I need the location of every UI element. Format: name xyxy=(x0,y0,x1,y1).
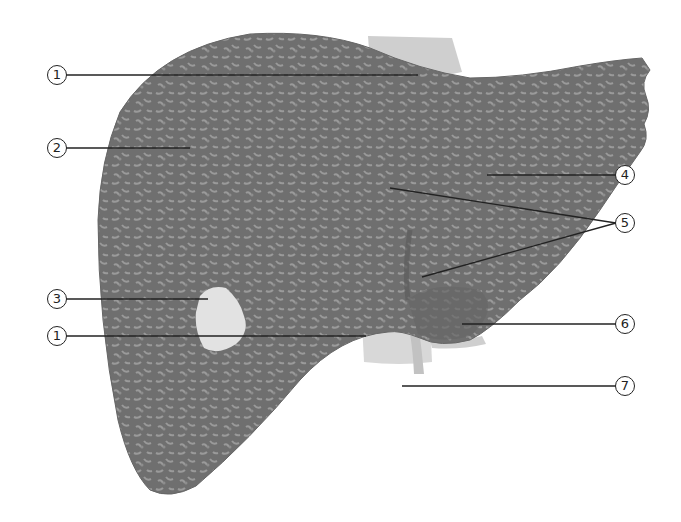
callout-6: 6 xyxy=(615,314,635,334)
callout-1-bottom: 1 xyxy=(47,326,67,346)
callout-4: 4 xyxy=(615,165,635,185)
callout-1-top: 1 xyxy=(47,65,67,85)
liver-illustration xyxy=(0,0,681,522)
liver-diagram: 1 2 3 1 4 5 6 7 xyxy=(0,0,681,522)
callout-2: 2 xyxy=(47,138,67,158)
callout-7: 7 xyxy=(615,376,635,396)
liver-silhouette xyxy=(98,33,650,494)
callout-3: 3 xyxy=(47,289,67,309)
callout-5: 5 xyxy=(615,213,635,233)
